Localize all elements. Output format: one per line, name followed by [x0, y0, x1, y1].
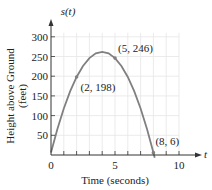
data-point-marker — [113, 56, 117, 60]
y-axis-label: Height above Ground (feet) — [4, 48, 29, 144]
y-axis-label-line-2: (feet) — [16, 84, 29, 108]
x-tick-label: 10 — [174, 159, 186, 171]
y-tick-label: 150 — [32, 90, 49, 102]
data-point-label: (5, 246) — [118, 42, 153, 55]
data-point-marker — [152, 151, 156, 155]
x-axis-label: Time (seconds) — [81, 174, 149, 187]
y-axis-name: s(t) — [61, 5, 76, 18]
tick-labels: 051050100150200250300 — [32, 31, 186, 171]
x-tick-label: 5 — [112, 159, 118, 171]
data-point-label: (8, 6) — [155, 135, 179, 148]
y-tick-label: 100 — [32, 110, 49, 122]
y-tick-label: 50 — [37, 129, 49, 141]
chart-svg: 051050100150200250300 (2, 198)(5, 246)(8… — [0, 0, 212, 190]
height-curve-path — [51, 52, 155, 158]
x-axis-name: t — [204, 148, 208, 160]
y-tick-label: 300 — [32, 31, 49, 43]
y-axis-label-line-1: Height above Ground — [4, 48, 16, 144]
data-point-label: (2, 198) — [81, 81, 116, 94]
height-curve — [51, 52, 155, 158]
x-tick-label: 0 — [48, 159, 54, 171]
y-tick-label: 250 — [32, 51, 49, 63]
x-axis-arrow-icon — [195, 153, 202, 158]
data-point-marker — [75, 75, 79, 79]
point-annotations: (2, 198)(5, 246)(8, 6) — [75, 42, 180, 154]
y-tick-label: 200 — [32, 70, 49, 82]
y-axis-arrow-icon — [49, 19, 54, 26]
height-vs-time-chart: 051050100150200250300 (2, 198)(5, 246)(8… — [0, 0, 212, 190]
